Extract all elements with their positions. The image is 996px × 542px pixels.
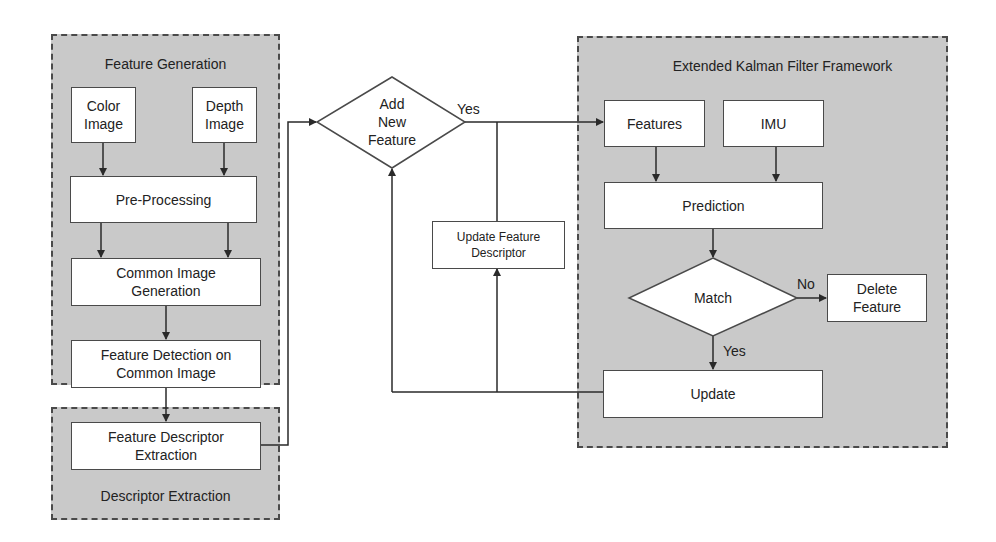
node-feature-descriptor-extraction: Feature Descriptor Extraction — [71, 422, 261, 470]
node-update: Update — [603, 370, 823, 418]
node-color-image: Color Image — [71, 87, 136, 143]
node-imu: IMU — [723, 100, 824, 147]
group-title-descriptor-extraction: Descriptor Extraction — [53, 488, 278, 504]
edge-label-match-no: No — [797, 276, 815, 292]
node-pre-processing: Pre-Processing — [70, 176, 257, 223]
edge-label-match-yes: Yes — [723, 343, 746, 359]
node-delete-feature: Delete Feature — [827, 274, 927, 322]
group-title-ekf-framework: Extended Kalman Filter Framework — [619, 58, 946, 74]
node-prediction: Prediction — [604, 182, 823, 229]
group-title-feature-generation: Feature Generation — [53, 56, 278, 72]
node-feature-detection: Feature Detection on Common Image — [71, 340, 261, 388]
decision-add-new-feature-label: Add New Feature — [342, 95, 442, 149]
node-features: Features — [604, 100, 705, 147]
node-update-feature-descriptor: Update Feature Descriptor — [432, 221, 565, 269]
decision-match-label: Match — [673, 289, 753, 307]
flowchart-canvas: Feature Generation Descriptor Extraction… — [0, 0, 996, 542]
edge-label-add-yes: Yes — [457, 101, 480, 117]
node-depth-image: Depth Image — [192, 87, 257, 143]
node-common-image-generation: Common Image Generation — [71, 258, 261, 306]
